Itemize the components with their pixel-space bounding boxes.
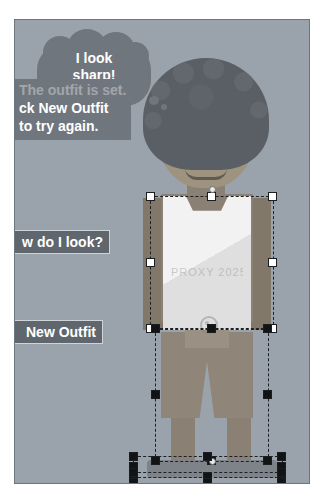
- resize-handle-ne[interactable]: [268, 192, 277, 201]
- resize-handle-nw[interactable]: [129, 452, 138, 461]
- bubble-tail-large: [149, 96, 159, 105]
- resize-handle-n[interactable]: [203, 452, 212, 461]
- resize-handle-e[interactable]: [263, 390, 272, 399]
- resize-handle-nw[interactable]: [146, 192, 155, 201]
- resize-handle-w[interactable]: [146, 258, 155, 267]
- shorts-selection-box[interactable]: [155, 328, 269, 462]
- resize-handle-ne[interactable]: [277, 468, 286, 477]
- resize-handle-nw[interactable]: [151, 324, 160, 333]
- resize-handle-ne[interactable]: [277, 452, 286, 461]
- how-do-i-look-button[interactable]: w do I look?: [14, 230, 110, 254]
- instruction-line-2: to try again.: [19, 117, 127, 135]
- rotation-handle[interactable]: [209, 186, 216, 193]
- resize-handle-w[interactable]: [151, 390, 160, 399]
- bubble-tail-small: [161, 104, 167, 110]
- resize-handle-se[interactable]: [277, 478, 286, 484]
- instruction-faded-line: The outfit is set.: [19, 81, 127, 99]
- resize-handle-ne[interactable]: [263, 324, 272, 333]
- stage-canvas[interactable]: PROXY 2025: [14, 19, 310, 484]
- resize-handle-sw[interactable]: [129, 478, 138, 484]
- resize-handle-n[interactable]: [207, 192, 216, 201]
- resize-handle-e[interactable]: [268, 258, 277, 267]
- new-outfit-button[interactable]: New Outfit: [14, 320, 103, 344]
- resize-handle-nw[interactable]: [129, 468, 138, 477]
- instruction-overlay: The outfit is set. ck New Outfit to try …: [15, 79, 131, 140]
- resize-handle-n[interactable]: [207, 324, 216, 333]
- hair-texture: [143, 58, 269, 166]
- screenshot-root: PROXY 2025: [0, 0, 322, 498]
- shoe-soles-selection-box[interactable]: [133, 472, 283, 484]
- instruction-line-1: ck New Outfit: [19, 99, 127, 117]
- speech-line-1: I look: [76, 50, 113, 66]
- resize-handle-s[interactable]: [203, 478, 212, 484]
- shirt-selection-box[interactable]: [150, 196, 274, 330]
